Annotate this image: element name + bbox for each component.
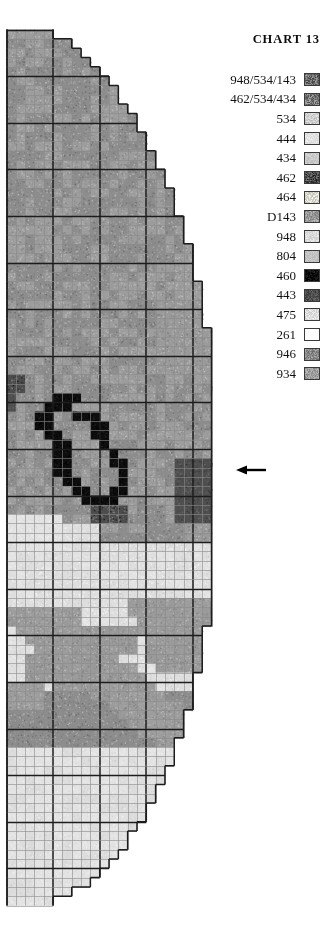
legend-swatch [304, 328, 320, 341]
legend-swatch [304, 171, 320, 184]
legend-label: 434 [277, 150, 305, 166]
legend-swatch [304, 93, 320, 106]
legend-row: 534 [180, 109, 320, 129]
legend-label: 948/534/143 [230, 72, 304, 88]
legend-label: 946 [277, 346, 305, 362]
legend-swatch [304, 289, 320, 302]
legend-swatch [304, 191, 320, 204]
chart-title: CHART 13 [253, 32, 320, 47]
legend-label: 534 [277, 111, 305, 127]
legend-swatch [304, 269, 320, 282]
legend-label: 804 [277, 248, 305, 264]
legend-row: 462/534/434 [180, 90, 320, 110]
legend-swatch [304, 250, 320, 263]
legend-row: 444 [180, 129, 320, 149]
legend-row: 460 [180, 266, 320, 286]
legend-swatch [304, 132, 320, 145]
legend-swatch [304, 308, 320, 321]
legend-swatch [304, 73, 320, 86]
legend-row: 804 [180, 246, 320, 266]
legend-row: 443 [180, 286, 320, 306]
legend-row: 948/534/143 [180, 70, 320, 90]
legend-label: 934 [277, 366, 305, 382]
legend-row: 464 [180, 188, 320, 208]
legend-swatch [304, 230, 320, 243]
legend-label: 261 [277, 327, 305, 343]
legend-label: 462 [277, 170, 305, 186]
legend-row: 434 [180, 148, 320, 168]
legend-row: 946 [180, 344, 320, 364]
legend-row: 475 [180, 305, 320, 325]
legend-swatch [304, 210, 320, 223]
legend-row: 948 [180, 227, 320, 247]
legend-row: 261 [180, 325, 320, 345]
legend-row: 934 [180, 364, 320, 384]
legend-label: 460 [277, 268, 305, 284]
legend-row: D143 [180, 207, 320, 227]
legend: 948/534/143462/534/434534444434462464D14… [180, 70, 320, 384]
legend-swatch [304, 112, 320, 125]
legend-swatch [304, 348, 320, 361]
legend-label: D143 [267, 209, 304, 225]
legend-label: 464 [277, 189, 305, 205]
legend-label: 443 [277, 287, 305, 303]
legend-swatch [304, 152, 320, 165]
legend-label: 444 [277, 131, 305, 147]
legend-label: 462/534/434 [230, 91, 304, 107]
legend-label: 475 [277, 307, 305, 323]
legend-swatch [304, 367, 320, 380]
legend-label: 948 [277, 229, 305, 245]
legend-row: 462 [180, 168, 320, 188]
